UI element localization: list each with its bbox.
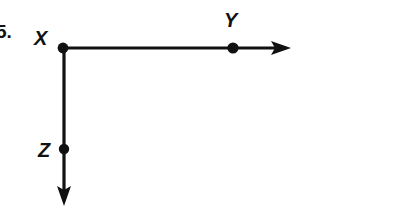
diagram-canvas: 5. X Y Z [0,0,399,216]
point-x-label: X [33,27,49,49]
point-y-dot [227,42,238,53]
point-y-label: Y [224,9,239,31]
point-x-dot [58,43,69,54]
point-z-label: Z [37,139,51,161]
figure-background [0,0,399,216]
problem-number-label: 5. [0,21,12,42]
point-z-dot [59,144,69,154]
ray-diagram-figure: 5. X Y Z [0,0,399,216]
